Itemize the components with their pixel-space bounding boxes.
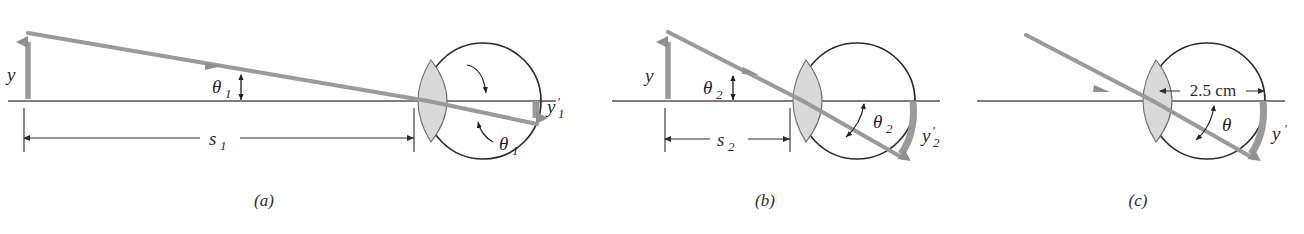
angle-refracted-subscript-b: 2 xyxy=(886,121,893,136)
image-height-subscript-a: 1 xyxy=(558,106,565,121)
image-arrow-b xyxy=(901,101,914,154)
object-distance-subscript-a: 1 xyxy=(220,138,227,153)
object-distance-label-a: s xyxy=(209,128,216,149)
angle-refracted-subscript-a: 1 xyxy=(512,143,519,158)
object-height-label-a: y xyxy=(5,64,16,85)
angle-incident-subscript-a: 1 xyxy=(225,86,232,101)
panel-caption-a: (a) xyxy=(254,191,274,210)
object-distance-subscript-b: 2 xyxy=(728,139,735,154)
angle-refracted-label-b: θ xyxy=(873,111,882,132)
image-height-prime-c: ′ xyxy=(1284,121,1287,136)
image-arrow-c xyxy=(1251,101,1264,154)
cornea-pointer-arrow-a xyxy=(467,65,486,93)
angle-incident-label-b: θ xyxy=(703,77,712,98)
incident-ray-b xyxy=(668,32,803,101)
incident-ray-direction-arrow-c xyxy=(1093,85,1110,92)
angle-refracted-label-a: θ xyxy=(499,133,508,154)
image-height-label-a: y xyxy=(545,96,556,117)
panel-a: y θ 1 θ 1 s 1 y ′ 1 (a) xyxy=(5,33,565,210)
panel-caption-c: (c) xyxy=(1129,191,1148,210)
panel-c: 2.5 cm θ y ′ (c) xyxy=(977,35,1287,210)
panel-b: y θ 2 θ 2 s 2 y ′ 2 (b) xyxy=(612,32,940,210)
panel-caption-b: (b) xyxy=(755,191,775,210)
optics-ray-diagram-figure: y θ 1 θ 1 s 1 y ′ 1 (a) xyxy=(0,0,1304,234)
object-distance-label-b: s xyxy=(717,129,724,150)
image-height-label-b: y xyxy=(920,125,931,146)
image-height-subscript-b: 2 xyxy=(933,135,940,150)
refracted-ray-c xyxy=(1153,101,1253,158)
angle-label-c: θ xyxy=(1222,114,1231,135)
angle-incident-label-a: θ xyxy=(212,76,221,97)
angle-incident-subscript-b: 2 xyxy=(716,87,723,102)
cornea-lens-b xyxy=(793,60,822,142)
eye-diameter-label-c: 2.5 cm xyxy=(1190,81,1236,100)
object-height-label-b: y xyxy=(643,65,654,86)
angle-refracted-arc-a xyxy=(478,122,493,142)
incident-ray-direction-arrow-b xyxy=(742,67,759,75)
cornea-lens-c xyxy=(1143,60,1172,142)
image-height-label-c: y xyxy=(1270,123,1281,144)
incident-ray-c xyxy=(1026,35,1153,101)
